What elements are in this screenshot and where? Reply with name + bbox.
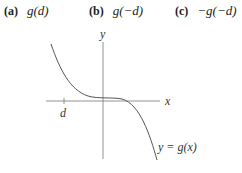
y-axis-label: y xyxy=(99,27,106,41)
tick-label-d: d xyxy=(60,106,67,120)
curve-label: y = g(x) xyxy=(157,140,197,154)
curve xyxy=(51,44,157,160)
graph: x y d y = g(x) xyxy=(0,0,242,173)
x-axis-label: x xyxy=(164,94,171,108)
